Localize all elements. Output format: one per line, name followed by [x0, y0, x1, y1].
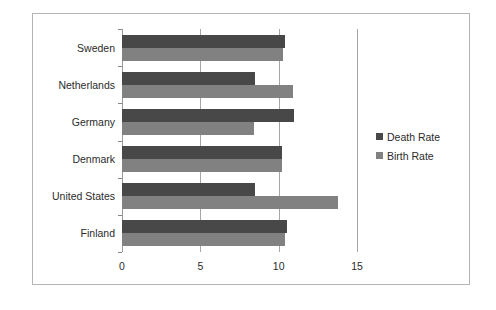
value-axis-tick-labels: 051015	[33, 260, 469, 278]
bar-united-states-death-rate[interactable]	[122, 183, 255, 196]
bar-group	[122, 215, 357, 252]
bar-sweden-birth-rate[interactable]	[122, 48, 283, 61]
chart-frame: SwedenNetherlandsGermanyDenmarkUnited St…	[32, 13, 470, 285]
category-axis-labels: SwedenNetherlandsGermanyDenmarkUnited St…	[33, 29, 115, 252]
chart-legend: Death RateBirth Rate	[376, 127, 468, 165]
x-tick-label-0: 0	[119, 260, 125, 272]
category-tick	[118, 29, 122, 30]
bar-denmark-death-rate[interactable]	[122, 146, 282, 159]
legend-swatch-icon	[376, 133, 383, 140]
legend-label: Death Rate	[387, 131, 440, 143]
bar-sweden-death-rate[interactable]	[122, 35, 285, 48]
category-label-united-states: United States	[52, 190, 115, 202]
category-label-germany: Germany	[72, 116, 115, 128]
category-tick	[118, 103, 122, 104]
x-tick-label-10: 10	[273, 260, 285, 272]
gridline-15	[357, 29, 358, 252]
bar-finland-birth-rate[interactable]	[122, 233, 285, 246]
legend-item-birth-rate[interactable]: Birth Rate	[376, 146, 468, 165]
category-tick	[118, 252, 122, 253]
category-label-finland: Finland	[81, 227, 115, 239]
category-tick	[118, 141, 122, 142]
bar-group	[122, 178, 357, 215]
legend-label: Birth Rate	[387, 150, 434, 162]
category-tick	[118, 66, 122, 67]
category-label-sweden: Sweden	[77, 42, 115, 54]
category-label-netherlands: Netherlands	[58, 79, 115, 91]
legend-item-death-rate[interactable]: Death Rate	[376, 127, 468, 146]
bar-netherlands-birth-rate[interactable]	[122, 85, 293, 98]
bar-group	[122, 141, 357, 178]
legend-swatch-icon	[376, 152, 383, 159]
x-tick-label-5: 5	[197, 260, 203, 272]
bar-germany-death-rate[interactable]	[122, 109, 294, 122]
bar-finland-death-rate[interactable]	[122, 220, 287, 233]
category-label-denmark: Denmark	[72, 153, 115, 165]
plot-area	[122, 29, 357, 252]
bar-united-states-birth-rate[interactable]	[122, 196, 338, 209]
x-tick-label-15: 15	[351, 260, 363, 272]
category-tick	[118, 178, 122, 179]
bar-germany-birth-rate[interactable]	[122, 122, 254, 135]
bar-group	[122, 103, 357, 140]
bar-group	[122, 66, 357, 103]
bar-group	[122, 29, 357, 66]
bar-denmark-birth-rate[interactable]	[122, 159, 282, 172]
category-tick	[118, 215, 122, 216]
bar-netherlands-death-rate[interactable]	[122, 72, 255, 85]
